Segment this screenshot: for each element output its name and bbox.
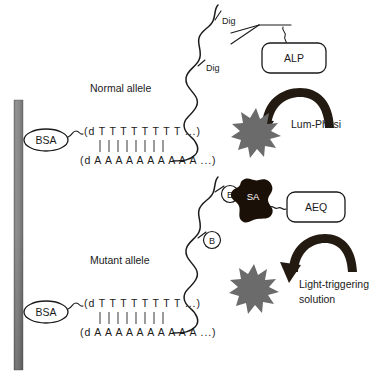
biotin-circle-lower: B: [204, 232, 221, 249]
bsa-label-mutant: BSA: [35, 306, 56, 318]
signal-starburst-normal: [231, 108, 281, 158]
aeq-label: AEQ: [305, 201, 327, 213]
substrate-label-mutant-line2: solution: [299, 293, 335, 305]
dig-tick-upper: [215, 11, 221, 20]
bsa-oval-mutant: BSA: [24, 301, 68, 323]
signal-starburst-mutant: [229, 264, 279, 314]
streptavidin-blob: SA: [231, 179, 273, 223]
biotin-label-lower: B: [209, 236, 215, 246]
schematic-diagram: BSA (d T T T T T T T T ...) (d A A A A A…: [0, 0, 386, 379]
dig-label-upper: Dig: [222, 16, 236, 26]
alp-enzyme-box: ALP: [262, 43, 326, 73]
substrate-label-normal: Lum-Phosi: [291, 118, 341, 130]
figure-canvas: BSA (d T T T T T T T T ...) (d A A A A A…: [0, 0, 386, 379]
bsa-linker-normal: [68, 131, 83, 137]
bsa-linker-mutant: [68, 303, 83, 309]
allele-title-mutant: Mutant allele: [90, 254, 150, 266]
anti-dig-antibody: [231, 25, 291, 44]
solid-support-bar: [14, 100, 23, 370]
target-strand-mutant: [173, 177, 218, 333]
base-pair-bonds-normal: [100, 140, 163, 152]
sa-aeq-linker: [270, 207, 286, 210]
substrate-label-mutant-line1: Light-triggering: [299, 278, 369, 290]
dig-label-lower: Dig: [206, 63, 220, 73]
allele-title-normal: Normal allele: [90, 82, 151, 94]
base-pair-bonds-mutant: [100, 312, 163, 324]
probe-bottom-sequence-normal: (d A A A A A A A A A A ...): [80, 154, 216, 166]
bsa-oval-normal: BSA: [24, 129, 68, 151]
probe-top-sequence-mutant: (d T T T T T T T T ...): [84, 297, 201, 309]
probe-top-sequence-normal: (d T T T T T T T T ...): [84, 125, 201, 137]
reaction-arrow-mutant: [280, 234, 357, 283]
alp-label: ALP: [284, 52, 304, 64]
streptavidin-label: SA: [247, 191, 260, 202]
panel-mutant-allele: BSA (d T T T T T T T T ...) (d A A A A A…: [24, 177, 369, 338]
antibody-alp-linker: [283, 27, 287, 44]
aeq-enzyme-box: AEQ: [287, 192, 345, 222]
target-strand-normal: [173, 5, 218, 161]
probe-bottom-sequence-mutant: (d A A A A A A A A A A ...): [80, 326, 216, 338]
bsa-label-normal: BSA: [35, 134, 56, 146]
panel-normal-allele: BSA (d T T T T T T T T ...) (d A A A A A…: [24, 5, 341, 166]
